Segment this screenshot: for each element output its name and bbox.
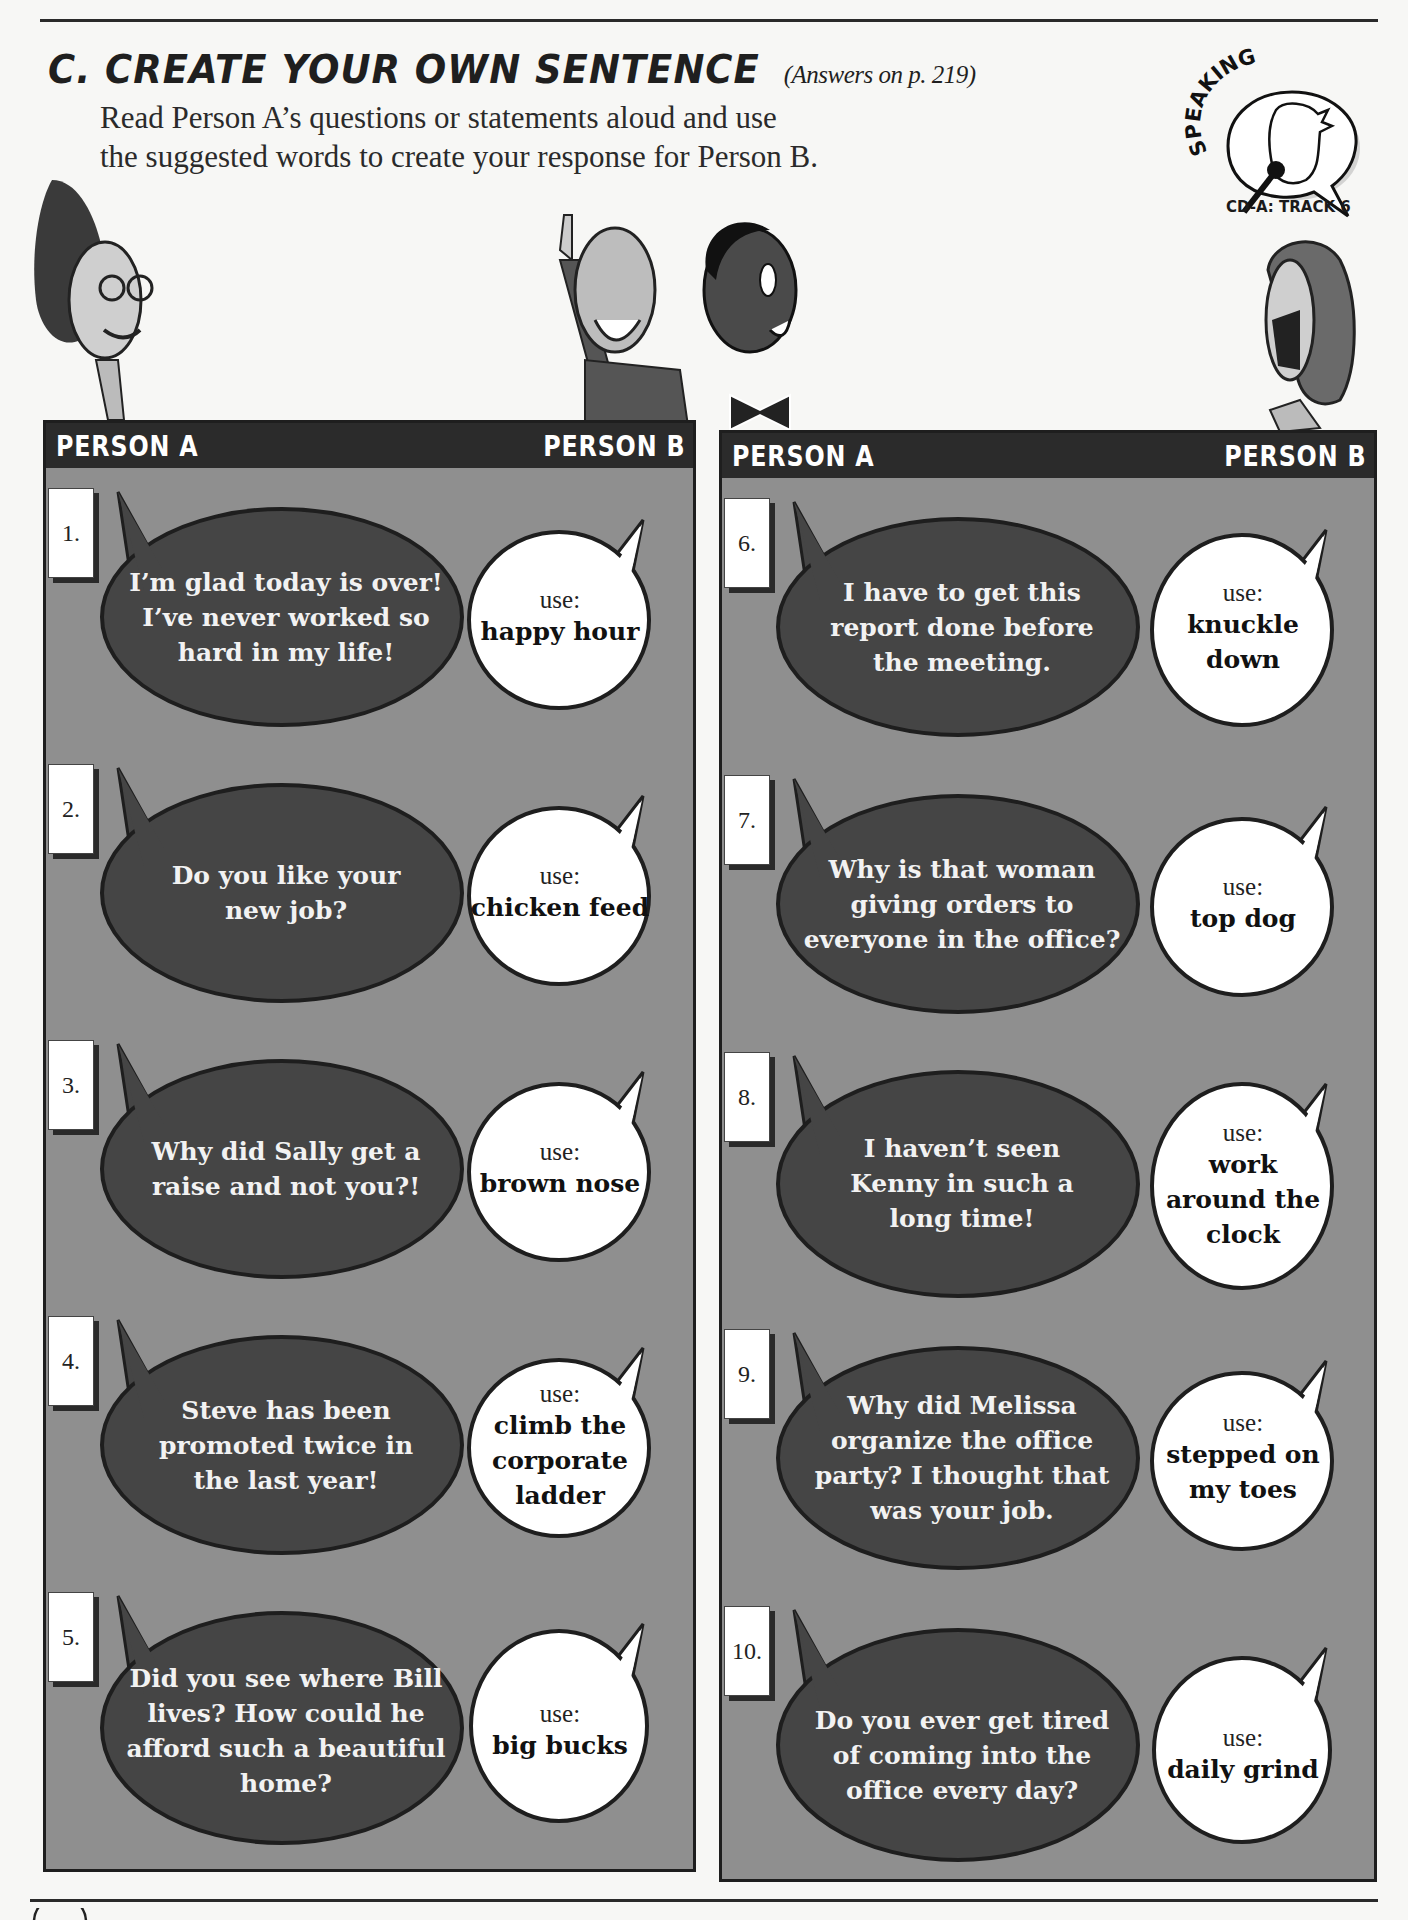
person-a-statement: I’m glad today is over! I’ve never worke… bbox=[126, 542, 446, 692]
person-a-statement: I haven’t seen Kenny in such a long time… bbox=[827, 1108, 1097, 1258]
use-label: use: bbox=[1223, 579, 1263, 607]
person-b-prompt: use: chicken feed bbox=[469, 818, 651, 968]
use-label: use: bbox=[540, 586, 580, 614]
suggested-phrase: stepped on my toes bbox=[1154, 1437, 1332, 1507]
suggested-phrase: top dog bbox=[1190, 901, 1296, 936]
item-number: 4. bbox=[48, 1316, 94, 1406]
person-a-statement: Did you see where Bill lives? How could … bbox=[126, 1651, 446, 1811]
bald-man-pointing-icon bbox=[560, 215, 690, 440]
dialogue-item-10: 10. Do you ever get tired of coming into… bbox=[722, 1590, 1374, 1866]
section-title: CREATE YOUR OWN SENTENCE bbox=[105, 47, 760, 92]
instructions: Read Person A’s questions or statements … bbox=[100, 98, 900, 176]
left-dialogue-panel: PERSON A PERSON B 1. I’m glad today is o… bbox=[43, 420, 696, 1872]
dialogue-item-5: 5. Did you see where Bill lives? How cou… bbox=[46, 1576, 693, 1852]
dialogue-item-2: 2. Do you like your new job? use: chicke… bbox=[46, 748, 693, 1024]
suggested-phrase: work around the clock bbox=[1157, 1147, 1329, 1252]
woman-laughing-icon bbox=[1266, 242, 1354, 432]
item-number: 6. bbox=[724, 498, 770, 588]
bottom-rule bbox=[30, 1899, 1378, 1902]
suggested-phrase: chicken feed bbox=[471, 890, 649, 925]
item-number: 1. bbox=[48, 488, 94, 578]
suggested-phrase: happy hour bbox=[481, 614, 640, 649]
dialogue-item-9: 9. Why did Melissa organize the office p… bbox=[722, 1313, 1374, 1589]
person-a-header: PERSON A bbox=[56, 429, 198, 463]
dialogue-item-3: 3. Why did Sally get a raise and not you… bbox=[46, 1024, 693, 1300]
man-with-bowtie-icon bbox=[704, 222, 796, 430]
use-label: use: bbox=[1223, 873, 1263, 901]
use-label: use: bbox=[1223, 1724, 1263, 1752]
use-label: use: bbox=[540, 1138, 580, 1166]
answers-reference: (Answers on p. 219) bbox=[784, 60, 976, 88]
person-b-prompt: use: stepped on my toes bbox=[1154, 1383, 1332, 1533]
item-number: 7. bbox=[724, 775, 770, 865]
dialogue-item-7: 7. Why is that woman giving orders to ev… bbox=[722, 759, 1374, 1035]
person-b-prompt: use: big bucks bbox=[474, 1656, 646, 1806]
suggested-phrase: daily grind bbox=[1167, 1752, 1319, 1787]
item-number: 9. bbox=[724, 1329, 770, 1419]
item-number: 2. bbox=[48, 764, 94, 854]
use-label: use: bbox=[540, 862, 580, 890]
person-a-statement: Do you like your new job? bbox=[156, 818, 416, 968]
person-b-prompt: use: happy hour bbox=[474, 542, 646, 692]
person-b-prompt: use: work around the clock bbox=[1157, 1098, 1329, 1273]
person-b-prompt: use: top dog bbox=[1157, 829, 1329, 979]
panel-header: PERSON A PERSON B bbox=[46, 423, 693, 468]
suggested-phrase: big bucks bbox=[492, 1728, 627, 1763]
person-b-prompt: use: knuckle down bbox=[1157, 548, 1329, 708]
person-b-header: PERSON B bbox=[1224, 439, 1366, 473]
item-number: 3. bbox=[48, 1040, 94, 1130]
suggested-phrase: knuckle down bbox=[1157, 607, 1329, 677]
dialogue-item-6: 6. I have to get this report done before… bbox=[722, 482, 1374, 758]
person-a-statement: Why did Melissa organize the office part… bbox=[802, 1378, 1122, 1538]
item-number: 8. bbox=[724, 1052, 770, 1142]
woman-with-glasses-icon bbox=[34, 180, 152, 420]
dialogue-item-8: 8. I haven’t seen Kenny in such a long t… bbox=[722, 1036, 1374, 1312]
cartoon-characters-illustration bbox=[0, 170, 1408, 440]
suggested-phrase: climb the corporate ladder bbox=[474, 1408, 646, 1513]
person-b-header: PERSON B bbox=[543, 429, 685, 463]
person-a-statement: Why is that woman giving orders to every… bbox=[792, 829, 1132, 979]
use-label: use: bbox=[1223, 1119, 1263, 1147]
item-number: 10. bbox=[724, 1606, 770, 1696]
page-number-circle-icon bbox=[30, 1908, 90, 1920]
use-label: use: bbox=[540, 1380, 580, 1408]
suggested-phrase: brown nose bbox=[480, 1166, 641, 1201]
dialogue-item-4: 4. Steve has been promoted twice in the … bbox=[46, 1300, 693, 1576]
person-a-header: PERSON A bbox=[732, 439, 874, 473]
use-label: use: bbox=[1223, 1409, 1263, 1437]
person-a-statement: Do you ever get tired of coming into the… bbox=[807, 1680, 1117, 1830]
panel-header: PERSON A PERSON B bbox=[722, 433, 1374, 478]
instructions-line-1: Read Person A’s questions or statements … bbox=[100, 98, 900, 137]
person-a-statement: I have to get this report done before th… bbox=[817, 552, 1107, 702]
person-a-statement: Steve has been promoted twice in the las… bbox=[136, 1370, 436, 1520]
person-b-prompt: use: brown nose bbox=[471, 1094, 649, 1244]
right-dialogue-panel: PERSON A PERSON B 6. I have to get this … bbox=[719, 430, 1377, 1882]
top-rule bbox=[40, 19, 1378, 22]
dialogue-item-1: 1. I’m glad today is over! I’ve never wo… bbox=[46, 472, 693, 748]
section-heading: C. CREATE YOUR OWN SENTENCE (Answers on … bbox=[48, 47, 976, 92]
use-label: use: bbox=[540, 1700, 580, 1728]
person-b-prompt: use: climb the corporate ladder bbox=[474, 1366, 646, 1526]
section-letter: C. bbox=[48, 47, 91, 92]
person-b-prompt: use: daily grind bbox=[1154, 1680, 1332, 1830]
item-number: 5. bbox=[48, 1592, 94, 1682]
person-a-statement: Why did Sally get a raise and not you?! bbox=[141, 1094, 431, 1244]
